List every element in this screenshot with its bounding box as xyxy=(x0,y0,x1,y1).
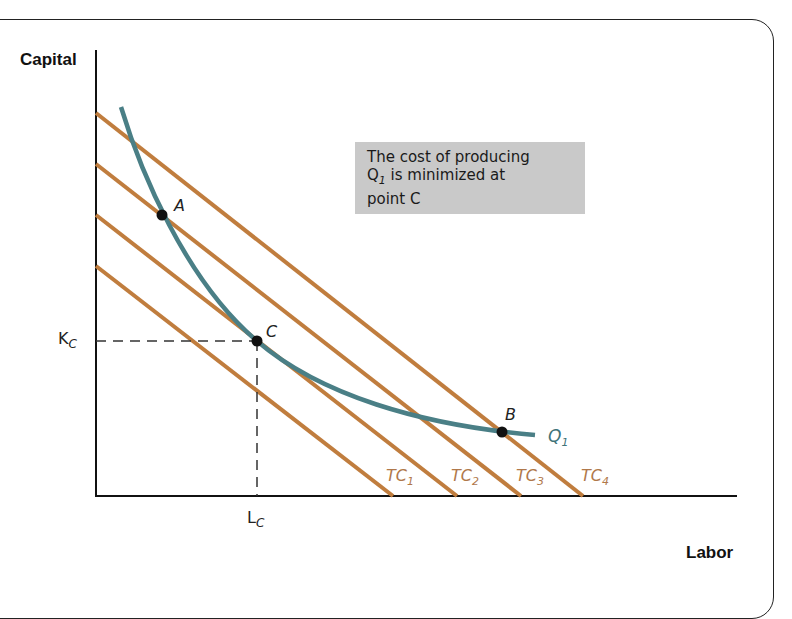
point-c xyxy=(252,336,263,347)
kc-letter: K xyxy=(58,329,69,348)
note-q: Q xyxy=(367,166,379,184)
tc1-label: TC1 xyxy=(386,466,414,488)
note-line-2: Q1 is minimized at xyxy=(367,166,573,190)
tc3-label: TC3 xyxy=(516,466,544,488)
q-subscript: 1 xyxy=(561,436,568,449)
tc2-sub: 2 xyxy=(472,475,479,488)
kc-subscript: C xyxy=(69,337,77,351)
tc3-sub: 3 xyxy=(537,475,544,488)
point-b xyxy=(497,427,508,438)
note-line-2-rest: is minimized at xyxy=(386,166,505,184)
note-line-1: The cost of producing xyxy=(367,148,573,166)
q-letter: Q xyxy=(548,426,561,446)
y-axis-label: Capital xyxy=(20,50,77,70)
tc4-sub: 4 xyxy=(602,475,609,488)
tc4-text: TC xyxy=(581,466,602,485)
isoquant-label: Q1 xyxy=(548,426,568,449)
tc2-text: TC xyxy=(451,466,472,485)
annotation-box: The cost of producing Q1 is minimized at… xyxy=(355,142,585,214)
x-axis-label: Labor xyxy=(686,543,733,563)
tc4-label: TC4 xyxy=(581,466,609,488)
point-a xyxy=(157,210,168,221)
note-line-3: point C xyxy=(367,190,573,208)
kc-tick-label: KC xyxy=(58,329,77,351)
point-b-label: B xyxy=(505,405,516,424)
tc2-label: TC2 xyxy=(451,466,479,488)
note-q-sub: 1 xyxy=(379,174,386,187)
lc-subscript: C xyxy=(256,516,264,530)
tc1-sub: 1 xyxy=(407,475,414,488)
point-c-label: C xyxy=(266,322,277,341)
lc-letter: L xyxy=(247,508,256,527)
point-a-label: A xyxy=(174,196,185,215)
isocost-tc1 xyxy=(96,266,393,496)
tc3-text: TC xyxy=(516,466,537,485)
lc-tick-label: LC xyxy=(247,508,264,530)
tc1-text: TC xyxy=(386,466,407,485)
